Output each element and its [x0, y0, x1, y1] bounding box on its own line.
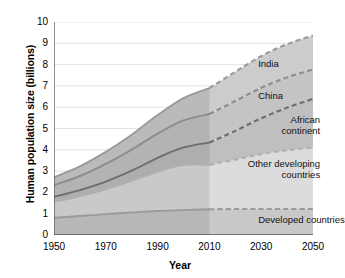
y-tick-5: 5: [26, 124, 48, 134]
x-tick-1990: 1990: [136, 241, 180, 252]
plot-area: IndiaChinaAfrican continentOther develop…: [54, 22, 313, 235]
y-tick-8: 8: [26, 60, 48, 70]
y-tick-7: 7: [26, 81, 48, 91]
annotation-other-developing-countries: Other developing countries: [248, 158, 320, 180]
y-tick-2: 2: [26, 187, 48, 197]
annotation-india: India: [258, 58, 279, 69]
stacked-area-plot: [54, 22, 313, 235]
x-tick-2010: 2010: [187, 241, 231, 252]
x-tick-1950: 1950: [32, 241, 76, 252]
annotation-african-continent: African continent: [282, 114, 321, 136]
x-axis-title: Year: [47, 259, 313, 271]
y-tick-6: 6: [26, 102, 48, 112]
x-tick-2030: 2030: [239, 241, 283, 252]
annotation-developed-countries: Developed countries: [258, 214, 345, 225]
x-tick-1970: 1970: [84, 241, 128, 252]
y-tick-4: 4: [26, 145, 48, 155]
y-tick-3: 3: [26, 166, 48, 176]
y-tick-0: 0: [26, 230, 48, 240]
x-tick-2050: 2050: [291, 241, 335, 252]
y-tick-1: 1: [26, 209, 48, 219]
y-tick-10: 10: [26, 17, 48, 27]
y-tick-9: 9: [26, 38, 48, 48]
annotation-china: China: [258, 90, 283, 101]
